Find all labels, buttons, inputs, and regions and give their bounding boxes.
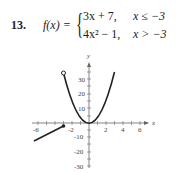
x-tick-label: 4	[121, 126, 125, 134]
y-axis-arrow-icon	[87, 62, 91, 67]
y-tick-label: -20	[74, 148, 84, 156]
y-axis-label: y	[86, 52, 91, 60]
piecewise-graph: x y -6 -2 2 4 6 30 20 10 -10 -20 -30	[0, 0, 184, 173]
x-axis-arrow-icon	[144, 121, 149, 125]
x-tick-label: 2	[104, 126, 108, 134]
x-axis-label: x	[151, 119, 156, 127]
x-tick-label: 6	[138, 126, 142, 134]
y-tick-label: 10	[78, 105, 86, 113]
y-tick-label: 20	[78, 90, 86, 98]
y-tick-label: 30	[78, 76, 86, 84]
closed-dot	[62, 124, 66, 128]
open-circle	[62, 71, 66, 75]
x-tick-label: -6	[33, 126, 39, 134]
y-tick-label: -10	[74, 133, 84, 141]
y-tick-label: -30	[74, 163, 84, 171]
